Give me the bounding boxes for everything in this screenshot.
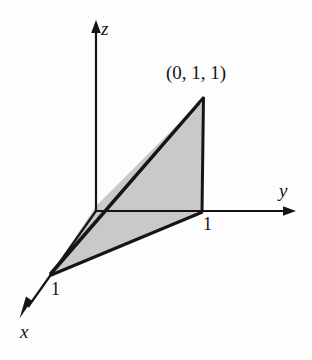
tick-label-y-one: 1: [203, 215, 212, 233]
z-axis-arrowhead-icon: [91, 20, 101, 33]
figure-container: z y x 1 1 (0, 1, 1): [0, 0, 312, 360]
figure-canvas: [0, 0, 312, 360]
x-axis-arrowhead-icon: [20, 297, 32, 319]
axis-label-x: x: [20, 322, 28, 341]
y-axis-arrowhead-icon: [283, 206, 296, 216]
edge-apex-vertical-right: [202, 97, 204, 213]
tick-label-x-one: 1: [51, 280, 60, 298]
z-axis: [91, 20, 101, 212]
axis-label-y: y: [279, 181, 287, 200]
point-label-vertex: (0, 1, 1): [166, 63, 226, 82]
axis-label-z: z: [101, 19, 108, 38]
